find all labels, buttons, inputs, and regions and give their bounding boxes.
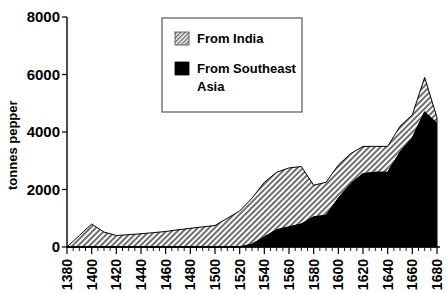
x-tick-label-1580: 1580 bbox=[306, 259, 322, 290]
x-tick-label-1560: 1560 bbox=[281, 259, 297, 290]
legend-label-from-india: From India bbox=[197, 31, 264, 46]
legend-label-from-southeast-asia-line2: Asia bbox=[197, 79, 225, 94]
x-tick-label-1540: 1540 bbox=[256, 259, 272, 290]
legend-swatch-from-southeast-asia bbox=[175, 62, 189, 75]
x-tick-label-1420: 1420 bbox=[108, 259, 124, 290]
legend-label-from-southeast-asia-line1: From Southeast bbox=[197, 61, 297, 76]
x-tick-label-1380: 1380 bbox=[59, 259, 75, 290]
y-tick-label-6000: 6000 bbox=[27, 66, 60, 83]
x-tick-label-1680: 1680 bbox=[429, 259, 445, 290]
x-tick-label-1600: 1600 bbox=[330, 259, 346, 290]
y-tick-label-2000: 2000 bbox=[27, 181, 60, 198]
x-tick-label-1460: 1460 bbox=[158, 259, 174, 290]
x-tick-label-1640: 1640 bbox=[380, 259, 396, 290]
x-tick-label-1400: 1400 bbox=[84, 259, 100, 290]
x-tick-label-1440: 1440 bbox=[133, 259, 149, 290]
y-tick-label-0: 0 bbox=[52, 238, 60, 255]
y-tick-label-4000: 4000 bbox=[27, 123, 60, 140]
chart-canvas: 8000 6000 4000 2000 0 tonnes pepper 1380… bbox=[0, 0, 448, 294]
y-axis-title: tonnes pepper bbox=[5, 100, 20, 190]
chart-legend: From India From Southeast Asia bbox=[162, 18, 302, 112]
y-tick-label-8000: 8000 bbox=[27, 8, 60, 25]
x-tick-label-1480: 1480 bbox=[182, 259, 198, 290]
x-tick-label-1500: 1500 bbox=[207, 259, 223, 290]
legend-swatch-from-india bbox=[175, 32, 189, 45]
x-tick-label-1660: 1660 bbox=[404, 259, 420, 290]
x-tick-label-1520: 1520 bbox=[232, 259, 248, 290]
x-tick-label-1620: 1620 bbox=[355, 259, 371, 290]
pepper-imports-area-chart: 8000 6000 4000 2000 0 tonnes pepper 1380… bbox=[0, 0, 448, 294]
